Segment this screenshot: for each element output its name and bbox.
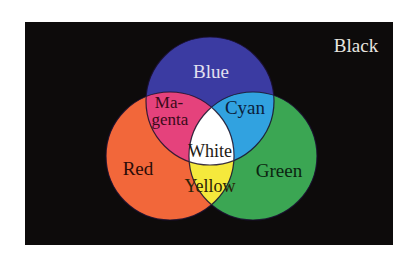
label-cyan: Cyan: [225, 97, 266, 118]
label-blue: Blue: [193, 61, 229, 82]
label-green: Green: [256, 160, 303, 181]
label-magenta-line2: genta: [152, 110, 189, 129]
label-white: White: [188, 141, 232, 161]
label-red: Red: [123, 158, 154, 179]
label-yellow: Yellow: [184, 176, 235, 196]
label-black: Black: [334, 35, 379, 56]
venn-diagram: Black Blue Red Green Ma- genta Cyan Whit…: [0, 0, 414, 262]
